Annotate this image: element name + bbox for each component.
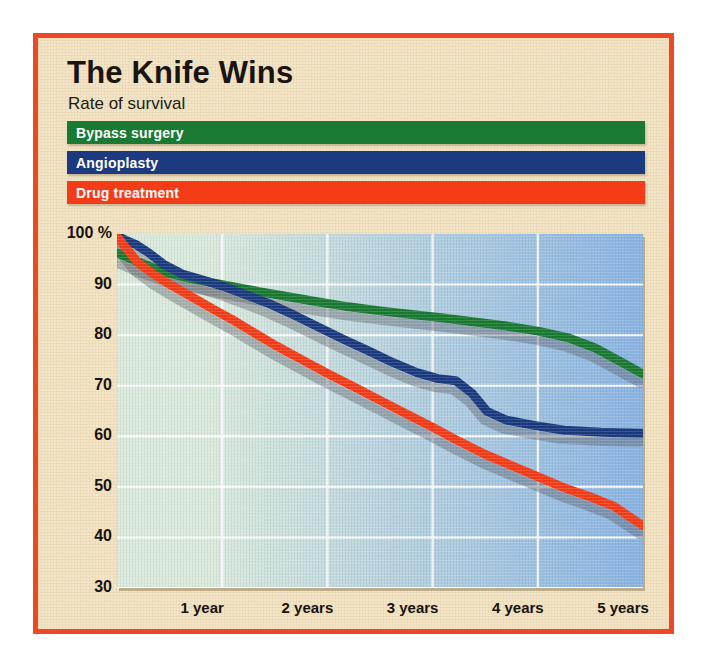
y-axis-labels: 100 %90807060504030 [38, 38, 112, 639]
plot-lines [117, 234, 643, 588]
chart-plot [117, 234, 643, 588]
x-axis-tick: 4 years [492, 599, 544, 616]
y-axis-tick: 90 [94, 275, 112, 293]
y-axis-tick: 100 % [67, 224, 112, 242]
y-axis-tick: 70 [94, 376, 112, 394]
y-axis-tick: 30 [94, 578, 112, 596]
legend-item-drug-treatment: Drug treatment [67, 181, 645, 204]
infographic-poster: The Knife Wins Rate of survival Bypass s… [33, 33, 674, 634]
x-axis-tick: 2 years [282, 599, 334, 616]
x-axis-tick: 1 year [181, 599, 224, 616]
y-axis-tick: 40 [94, 527, 112, 545]
x-axis-tick: 3 years [387, 599, 439, 616]
y-axis-tick: 60 [94, 426, 112, 444]
legend-item-bypass-surgery: Bypass surgery [67, 121, 645, 144]
plot-area [117, 234, 643, 588]
x-axis-tick: 5 years [597, 599, 649, 616]
legend-item-angioplasty: Angioplasty [67, 151, 645, 174]
y-axis-tick: 80 [94, 325, 112, 343]
y-axis-tick: 50 [94, 477, 112, 495]
